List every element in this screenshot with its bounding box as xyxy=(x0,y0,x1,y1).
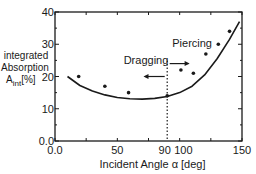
dragging-label: Dragging xyxy=(124,54,169,66)
data-point xyxy=(192,71,196,75)
y-axis-label-line1: integrated xyxy=(4,50,48,61)
y-tick-label: 40 xyxy=(42,6,54,18)
data-point xyxy=(77,75,81,79)
absorption-chart: 0.050901001500.010203040Incident Angle α… xyxy=(0,0,256,174)
y-axis-label-line3: Aint[%] xyxy=(6,74,36,88)
x-tick-label: 150 xyxy=(233,144,251,156)
data-point xyxy=(127,91,131,95)
y-tick-label: 0.0 xyxy=(39,135,54,147)
y-axis-label-line2: Absorption xyxy=(1,62,49,73)
data-point xyxy=(103,84,107,88)
data-point xyxy=(217,42,221,46)
data-point xyxy=(179,68,183,72)
piercing-arrow-head xyxy=(185,61,190,66)
x-tick-label: 90 xyxy=(159,144,171,156)
data-point xyxy=(165,94,169,98)
y-tick-label: 10 xyxy=(42,103,54,115)
x-axis-label: Incident Angle α [deg] xyxy=(99,158,205,170)
piercing-label: Piercing xyxy=(172,37,212,49)
y-tick-label: 30 xyxy=(42,38,54,50)
x-tick-label: 100 xyxy=(174,144,192,156)
x-tick-label: 50 xyxy=(111,144,123,156)
data-point xyxy=(204,52,208,56)
dragging-arrow-head xyxy=(144,74,149,79)
data-point xyxy=(228,30,232,34)
